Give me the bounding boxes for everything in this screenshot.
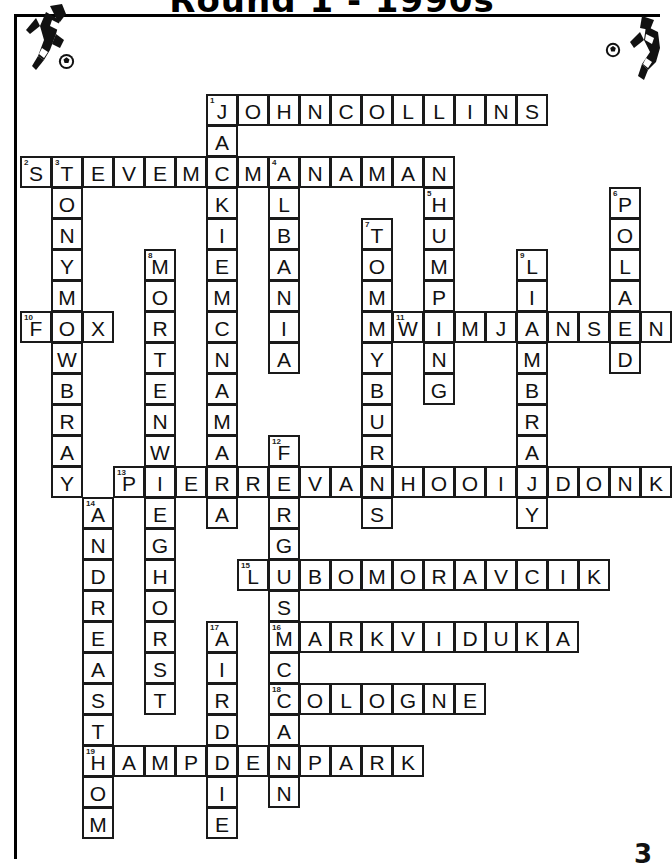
crossword-cell[interactable]: N (268, 280, 300, 312)
crossword-cell[interactable]: O (299, 683, 331, 715)
crossword-cell[interactable]: C (206, 311, 238, 343)
crossword-cell[interactable]: Y (516, 497, 548, 529)
crossword-cell[interactable]: 2S (20, 156, 52, 188)
crossword-cell[interactable]: M (144, 745, 176, 777)
crossword-cell[interactable]: M (237, 156, 269, 188)
crossword-cell[interactable]: I (485, 466, 517, 498)
crossword-cell[interactable]: D (206, 745, 238, 777)
crossword-cell[interactable]: U (423, 218, 455, 250)
crossword-cell[interactable]: A (82, 652, 114, 684)
crossword-cell[interactable]: 14A (82, 497, 114, 529)
crossword-cell[interactable]: S (516, 94, 548, 126)
crossword-cell[interactable]: Y (51, 249, 83, 281)
crossword-cell[interactable]: T (144, 683, 176, 715)
crossword-cell[interactable]: O (454, 466, 486, 498)
crossword-cell[interactable]: R (516, 404, 548, 436)
crossword-cell[interactable]: G (268, 528, 300, 560)
crossword-cell[interactable]: A (268, 249, 300, 281)
crossword-cell[interactable]: O (609, 218, 641, 250)
crossword-cell[interactable]: S (268, 590, 300, 622)
crossword-cell[interactable]: N (299, 94, 331, 126)
crossword-cell[interactable]: 5H (423, 187, 455, 219)
crossword-cell[interactable]: O (330, 559, 362, 591)
crossword-cell[interactable]: R (206, 683, 238, 715)
crossword-cell[interactable]: K (516, 621, 548, 653)
crossword-cell[interactable]: U (361, 404, 393, 436)
crossword-cell[interactable]: Y (361, 342, 393, 374)
crossword-cell[interactable]: L (423, 94, 455, 126)
crossword-cell[interactable]: E (144, 497, 176, 529)
crossword-cell[interactable]: U (485, 621, 517, 653)
crossword-cell[interactable]: V (299, 466, 331, 498)
crossword-cell[interactable]: P (299, 745, 331, 777)
crossword-cell[interactable]: I (516, 280, 548, 312)
crossword-cell[interactable]: A (516, 435, 548, 467)
crossword-cell[interactable]: 19H (82, 745, 114, 777)
crossword-cell[interactable]: M (361, 280, 393, 312)
crossword-cell[interactable]: M (361, 156, 393, 188)
crossword-cell[interactable]: J (516, 466, 548, 498)
crossword-cell[interactable]: M (206, 404, 238, 436)
crossword-cell[interactable]: N (268, 745, 300, 777)
crossword-cell[interactable]: 7T (361, 218, 393, 250)
crossword-cell[interactable]: R (330, 621, 362, 653)
crossword-cell[interactable]: I (454, 94, 486, 126)
crossword-cell[interactable]: B (268, 218, 300, 250)
crossword-cell[interactable]: O (578, 466, 610, 498)
crossword-cell[interactable]: E (206, 249, 238, 281)
crossword-cell[interactable]: R (206, 466, 238, 498)
crossword-cell[interactable]: 10F (20, 311, 52, 343)
crossword-cell[interactable]: H (392, 466, 424, 498)
crossword-cell[interactable]: U (268, 559, 300, 591)
crossword-cell[interactable]: N (82, 528, 114, 560)
crossword-cell[interactable]: I (144, 466, 176, 498)
crossword-cell[interactable]: 1J (206, 94, 238, 126)
crossword-cell[interactable]: A (392, 156, 424, 188)
crossword-cell[interactable]: D (454, 621, 486, 653)
crossword-cell[interactable]: V (113, 156, 145, 188)
crossword-cell[interactable]: K (206, 187, 238, 219)
crossword-cell[interactable]: 12F (268, 435, 300, 467)
crossword-cell[interactable]: N (299, 156, 331, 188)
crossword-cell[interactable]: N (51, 218, 83, 250)
crossword-cell[interactable]: R (144, 621, 176, 653)
crossword-cell[interactable]: E (82, 621, 114, 653)
crossword-cell[interactable]: J (485, 311, 517, 343)
crossword-cell[interactable]: M (82, 807, 114, 839)
crossword-cell[interactable]: 11W (392, 311, 424, 343)
crossword-cell[interactable]: P (423, 280, 455, 312)
crossword-cell[interactable]: R (423, 559, 455, 591)
crossword-cell[interactable]: A (547, 621, 579, 653)
crossword-cell[interactable]: V (392, 621, 424, 653)
crossword-cell[interactable]: O (144, 280, 176, 312)
crossword-cell[interactable]: O (82, 776, 114, 808)
crossword-cell[interactable]: D (206, 714, 238, 746)
crossword-cell[interactable]: A (268, 342, 300, 374)
crossword-cell[interactable]: C (330, 94, 362, 126)
crossword-cell[interactable]: P (175, 745, 207, 777)
crossword-cell[interactable]: 3T (51, 156, 83, 188)
crossword-cell[interactable]: N (485, 94, 517, 126)
crossword-cell[interactable]: N (609, 466, 641, 498)
crossword-cell[interactable]: X (82, 311, 114, 343)
crossword-cell[interactable]: I (206, 218, 238, 250)
crossword-cell[interactable]: R (237, 466, 269, 498)
crossword-cell[interactable]: E (206, 807, 238, 839)
crossword-cell[interactable]: O (51, 187, 83, 219)
crossword-cell[interactable]: E (237, 745, 269, 777)
crossword-cell[interactable]: G (423, 373, 455, 405)
crossword-cell[interactable]: 8M (144, 249, 176, 281)
crossword-cell[interactable]: B (51, 373, 83, 405)
crossword-cell[interactable]: A (206, 125, 238, 157)
crossword-cell[interactable]: O (423, 466, 455, 498)
crossword-cell[interactable]: N (423, 156, 455, 188)
crossword-cell[interactable]: N (423, 683, 455, 715)
crossword-cell[interactable]: N (423, 342, 455, 374)
crossword-cell[interactable]: 4A (268, 156, 300, 188)
crossword-cell[interactable]: E (144, 373, 176, 405)
crossword-cell[interactable]: I (206, 776, 238, 808)
crossword-cell[interactable]: M (175, 156, 207, 188)
crossword-cell[interactable]: T (144, 342, 176, 374)
crossword-cell[interactable]: 6P (609, 187, 641, 219)
crossword-cell[interactable]: H (268, 94, 300, 126)
